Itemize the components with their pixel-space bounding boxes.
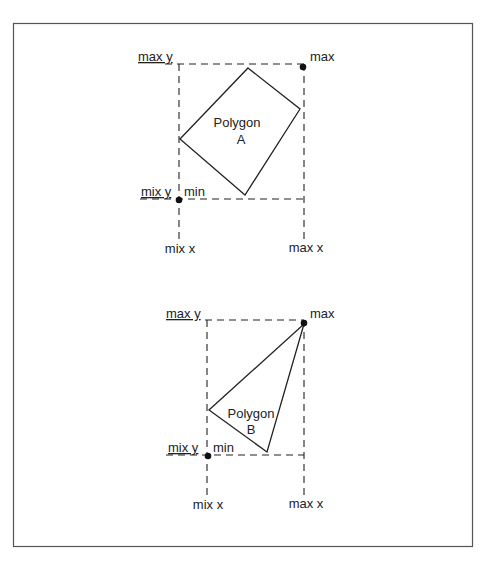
min-x-label: mix x <box>193 497 224 512</box>
min-point-dot <box>205 453 212 460</box>
min-y-label: mix y <box>141 184 172 199</box>
min-point-label: min <box>213 440 234 455</box>
polygon-a-label-line2: A <box>237 132 246 147</box>
max-y-label: max y <box>138 49 173 64</box>
figure-frame <box>14 24 473 547</box>
min-point-label: min <box>184 184 205 199</box>
diagram-polygon-a: Polygon A max y max mix y min mix x max … <box>138 49 335 256</box>
polygon-a-label-line1: Polygon <box>214 115 261 130</box>
max-point-label: max <box>310 49 335 64</box>
max-y-label: max y <box>166 306 201 321</box>
polygon-b-label-line2: B <box>247 422 256 437</box>
max-x-label: max x <box>289 496 324 511</box>
max-x-label: max x <box>289 240 324 255</box>
bounding-box-figure: Polygon A max y max mix y min mix x max … <box>0 0 482 564</box>
polygon-b-shape <box>209 324 304 452</box>
min-y-label: mix y <box>168 440 199 455</box>
polygon-b-label-line1: Polygon <box>228 406 275 421</box>
min-x-label: mix x <box>165 241 196 256</box>
max-point-dot <box>301 320 308 327</box>
max-point-label: max <box>310 306 335 321</box>
max-point-dot <box>300 64 307 71</box>
min-point-dot <box>176 197 183 204</box>
diagram-polygon-b: Polygon B max y max mix y min mix x max … <box>166 306 335 512</box>
